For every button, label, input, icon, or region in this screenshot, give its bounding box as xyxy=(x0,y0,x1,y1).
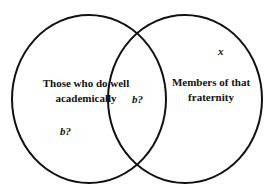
right-set-label-line1: Members of that xyxy=(166,75,256,90)
left-set-label-line1: Those who do well xyxy=(26,76,146,91)
left-set-label: Those who do well academically xyxy=(26,76,146,106)
left-only-marker: b? xyxy=(60,125,71,137)
intersection-marker: b? xyxy=(132,93,143,105)
right-set-label-line2: fraternity xyxy=(166,90,256,105)
right-only-marker: x xyxy=(218,45,224,57)
right-set-label: Members of that fraternity xyxy=(166,75,256,105)
left-set-label-line2: academically xyxy=(26,91,146,106)
